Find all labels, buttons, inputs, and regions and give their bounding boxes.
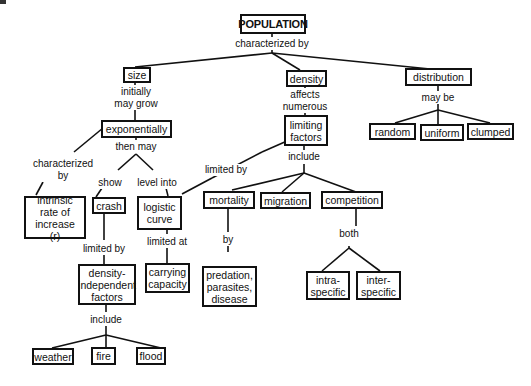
node-distribution: distribution — [405, 68, 472, 86]
link-show: show — [98, 177, 121, 189]
link-affects-numerous: affects numerous — [283, 89, 327, 113]
link-may-be: may be — [422, 92, 455, 104]
node-intra-specific: intra- specific — [306, 271, 350, 300]
node-density-independent-factors: density- independent factors — [78, 264, 136, 305]
link-include-2: include — [90, 314, 122, 326]
link-limited-by-2: limited by — [83, 243, 125, 255]
node-intrinsic-rate: intrinsic rate of increase (r) — [24, 196, 86, 239]
node-exponentially: exponentially — [101, 120, 172, 138]
link-then-may: then may — [115, 141, 156, 153]
node-mortality: mortality — [203, 191, 255, 209]
link-limited-at: limited at — [147, 236, 187, 248]
link-include-1: include — [288, 151, 320, 163]
node-fire: fire — [91, 347, 116, 365]
link-by: by — [223, 234, 234, 246]
node-uniform: uniform — [420, 124, 464, 141]
link-level-into: level into — [137, 177, 176, 189]
link-both: both — [339, 228, 358, 240]
node-crash: crash — [92, 197, 126, 214]
node-flood: flood — [136, 347, 166, 365]
node-size: size — [123, 67, 151, 83]
node-random: random — [369, 123, 416, 140]
node-carrying-capacity: carrying capacity — [145, 263, 190, 293]
node-weather: weather — [32, 348, 74, 365]
link-limited-by-arrow: limited by — [205, 164, 247, 176]
node-migration: migration — [260, 192, 311, 209]
node-competition: competition — [321, 191, 383, 209]
link-characterized-by: characterized by — [235, 38, 308, 50]
link-initially-may-grow: initially may grow — [114, 86, 157, 110]
node-density: density — [286, 70, 327, 87]
node-limiting-factors: limiting factors — [284, 115, 328, 146]
link-characterized-by-2: characterized by — [33, 158, 93, 182]
node-predation: predation, parasites, disease — [202, 266, 257, 307]
node-inter-specific: inter- specific — [356, 271, 401, 300]
node-logistic-curve: logistic curve — [137, 196, 182, 230]
node-population: POPULATION — [240, 14, 306, 34]
node-clumped: clumped — [467, 123, 514, 140]
